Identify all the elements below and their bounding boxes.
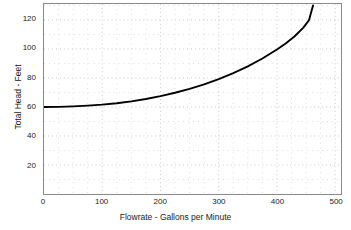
y-tick-label: 100 <box>2 44 36 52</box>
y-tick-label: 40 <box>2 132 36 140</box>
x-tick-label: 400 <box>258 198 298 206</box>
x-tick-label: 200 <box>140 198 180 206</box>
chart-container: Total Head - Feet 20406080100120 0100200… <box>0 0 351 230</box>
x-tick-label: 300 <box>199 198 239 206</box>
y-tick-label: 120 <box>2 15 36 23</box>
x-tick-label: 0 <box>23 198 63 206</box>
x-axis-title: Flowrate - Gallons per Minute <box>0 212 351 222</box>
y-tick-label-group: 20406080100120 <box>0 3 40 195</box>
series-line-system-head <box>44 5 313 107</box>
y-tick-label: 60 <box>2 103 36 111</box>
y-tick-label: 80 <box>2 74 36 82</box>
x-tick-label-group: 0100200300400500 <box>43 198 342 210</box>
x-tick-label: 100 <box>82 198 122 206</box>
data-series-curve <box>44 4 341 194</box>
plot-area <box>43 3 342 195</box>
y-tick-label: 20 <box>2 162 36 170</box>
x-tick-label: 500 <box>316 198 351 206</box>
